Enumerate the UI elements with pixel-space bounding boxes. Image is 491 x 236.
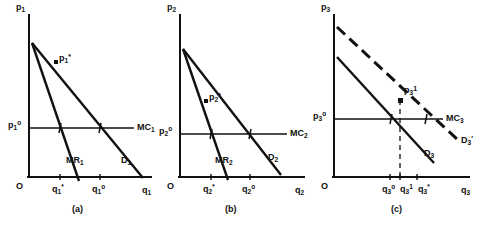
- panel-b-mr-label: MR2: [215, 155, 233, 166]
- panel-b-origin-label: O: [167, 182, 174, 191]
- panel-b-y-axis-label: p2: [167, 3, 176, 14]
- panel-a-x-axis-label: q1: [142, 186, 151, 197]
- figure-canvas: [0, 0, 491, 236]
- panel-a-optimum-point-label: p1*: [59, 53, 71, 64]
- panel-a-mr-label: MR1: [66, 155, 84, 166]
- panel-a-graphics: [27, 14, 152, 181]
- panel-b-graphics: [178, 14, 305, 180]
- panel-c-demand-label: D3: [424, 148, 434, 159]
- panel-a-optimum-point-marker: [54, 60, 58, 64]
- panel-b-demand-label: D2: [268, 152, 278, 163]
- panel-c-graphics: [332, 14, 470, 180]
- panel-b-caption: (b): [225, 204, 237, 214]
- panel-c-xtick-label-qone: q31: [400, 184, 413, 196]
- panel-a-price-level-label: p1o: [8, 120, 21, 132]
- panel-b-xtick-label-qzero: q2o: [242, 184, 255, 196]
- panel-b-xtick-label-qstar: q2*: [203, 184, 215, 196]
- panel-b-optimum-point-marker: [204, 99, 208, 103]
- panel-c-demand-curve: [337, 57, 434, 163]
- panel-b-optimum-point-label: p2*: [209, 92, 221, 103]
- panel-c-x-axis-label: q3: [461, 186, 470, 197]
- panel-c-new-price-label: p31: [404, 85, 417, 96]
- panel-a-caption: (a): [72, 204, 83, 214]
- panel-b-price-level-label: p2o: [159, 126, 172, 138]
- panel-c-shifted-demand-label: D3′: [461, 135, 473, 146]
- panel-c-xtick-label-qstar: q3*: [418, 184, 430, 196]
- panel-a-xtick-label-qstar: q1*: [52, 184, 64, 196]
- panel-c-dprime-mc-intersection-tick: [425, 114, 427, 124]
- panel-a-origin-label: O: [16, 182, 23, 191]
- panel-c-new-price-point-marker: [398, 98, 403, 103]
- panel-b-mc-label: MC2: [290, 128, 308, 139]
- economics-three-panel-figure: p1 q1 O p1o p1* MC1 MR1 D1 q1* q1o (a) p…: [0, 0, 491, 236]
- panel-c-caption: (c): [391, 204, 402, 214]
- panel-a-y-axis-label: p1: [16, 3, 25, 14]
- panel-a-xtick-label-qzero: q1o: [92, 184, 105, 196]
- panel-c-xtick-label-qzero: q3o: [382, 184, 395, 196]
- panel-c-origin-label: O: [321, 182, 328, 191]
- panel-c-mc-label: MC3: [446, 113, 464, 124]
- panel-a-mc-label: MC1: [137, 122, 155, 133]
- panel-a-demand-label: D1: [121, 155, 131, 166]
- panel-b-x-axis-label: q2: [295, 186, 304, 197]
- panel-c-y-axis-label: p3: [321, 3, 330, 14]
- panel-c-price-level-label: p3o: [313, 111, 326, 123]
